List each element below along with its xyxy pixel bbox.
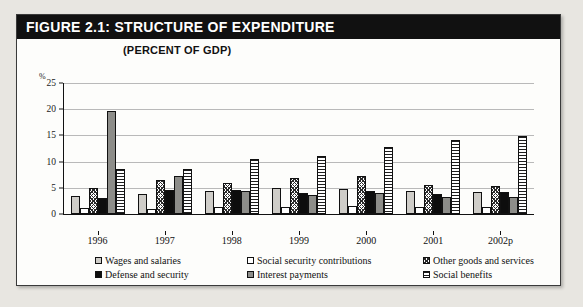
bar [299,193,308,214]
bar [451,140,460,214]
bar [317,156,326,214]
legend-item: Wages and salaries [95,255,247,266]
legend-swatch-icon [95,257,102,264]
plot-wrapper: 0510152025 [37,83,542,230]
bar [183,169,192,214]
legend-swatch-icon [423,257,430,264]
bar [116,169,125,214]
bar [348,206,357,214]
bar [509,197,518,214]
legend-item: Social benefits [423,269,492,280]
legend-label: Social security contributions [257,255,371,266]
legend-swatch-icon [247,257,254,264]
bar [518,136,527,214]
bar [290,178,299,214]
y-axis: 0510152025 [37,83,59,214]
bar [214,207,223,214]
bar [98,198,107,214]
bar-group-1998 [205,83,259,214]
figure-subtitle: (PERCENT OF GDP) [123,44,231,56]
bar [406,191,415,214]
x-axis-tick-label: 1998 [222,235,242,246]
y-axis-tick-label: 10 [47,157,57,167]
y-axis-tick-label: 20 [47,104,57,114]
legend-label: Wages and salaries [105,255,181,266]
bar [357,176,366,214]
legend-swatch-icon [95,271,102,278]
bar [250,159,259,214]
plot-area [63,83,534,215]
legend-item: Other goods and services [423,255,534,266]
figure-container: FIGURE 2.1: STRUCTURE OF EXPENDITURE (PE… [16,14,561,286]
bar [107,111,116,214]
figure-title-bar: FIGURE 2.1: STRUCTURE OF EXPENDITURE [17,15,560,39]
bar [71,196,80,214]
y-axis-tick-label: 15 [47,130,57,140]
bar [424,185,433,214]
bar [165,190,174,214]
x-axis-tick-label: 1996 [88,235,108,246]
legend-swatch-icon [247,271,254,278]
legend-label: Other goods and services [433,255,534,266]
legend-row: Defense and securityInterest paymentsSoc… [17,269,560,280]
x-axis: 1996199719981999200020012002p [63,231,533,247]
figure-title: FIGURE 2.1: STRUCTURE OF EXPENDITURE [17,19,335,35]
legend-label: Interest payments [257,269,328,280]
legend-item: Defense and security [95,269,247,280]
bar [433,194,442,214]
bar [232,190,241,214]
bar-group-2001 [406,83,460,214]
x-axis-tick-label: 1997 [155,235,175,246]
bar [500,192,509,214]
bar [375,193,384,214]
bar [482,207,491,214]
bar [384,147,393,214]
bar [174,176,183,214]
bar [339,189,348,214]
bar-group-2000 [339,83,393,214]
legend-swatch-icon [423,271,430,278]
legend-label: Defense and security [105,269,189,280]
bar [272,188,281,214]
bar-group-1996 [71,83,125,214]
bar [366,191,375,214]
y-axis-tick-label: 0 [51,209,56,219]
bar [491,186,500,214]
x-axis-tick-label: 1999 [289,235,309,246]
bar [147,209,156,214]
bar [156,180,165,214]
legend-item: Interest payments [247,269,423,280]
bar [205,191,214,214]
y-axis-tick-label: 25 [47,78,57,88]
legend-row: Wages and salariesSocial security contri… [17,255,560,266]
bar [223,183,232,214]
bar [241,191,250,214]
bar [415,207,424,214]
legend-item: Social security contributions [247,255,423,266]
bar [308,195,317,214]
x-axis-tick-label: 2001 [423,235,443,246]
bar [80,208,89,214]
bar [281,207,290,214]
y-axis-tick-label: 5 [51,183,56,193]
bar-groups [64,83,534,214]
bar [89,188,98,214]
x-axis-tick-label: 2000 [356,235,376,246]
bar [442,197,451,214]
bar [473,192,482,214]
y-axis-unit-label: % [39,72,46,81]
legend-label: Social benefits [433,269,492,280]
bar-group-1999 [272,83,326,214]
chart-legend: Wages and salariesSocial security contri… [17,255,560,283]
bar-group-2002p [473,83,527,214]
bar-group-1997 [138,83,192,214]
bar [138,194,147,214]
x-axis-tick-label: 2002p [488,235,513,246]
